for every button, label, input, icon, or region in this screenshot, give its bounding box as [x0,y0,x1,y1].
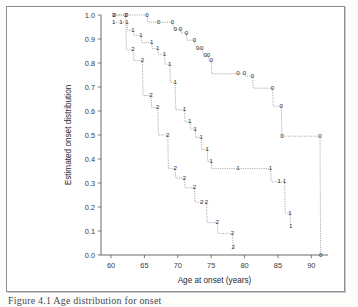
data-point-marker-0: 0 [251,72,255,79]
data-point-marker-1: 1 [193,125,197,132]
data-point-marker-2: 2 [124,11,128,18]
data-point-marker-0: 0 [173,25,177,32]
y-axis-ticks: 0.00.10.20.30.40.50.60.70.80.91.0 [85,11,101,260]
data-point-marker-0: 0 [318,132,322,139]
y-axis-tick-label: 0.0 [85,251,95,260]
data-point-marker-0: 0 [171,18,175,25]
y-axis-tick-label: 0.6 [85,107,95,116]
data-point-marker-2: 2 [156,103,160,110]
data-point-marker-0: 0 [145,11,149,18]
data-point-marker-1: 1 [209,157,213,164]
x-axis-tick-label: 65 [140,261,148,270]
figure-caption: Figure 4.1 Age distribution for onset [8,295,348,307]
y-axis-tick-label: 0.1 [85,227,95,236]
y-axis-tick-label: 1.0 [85,11,95,20]
chart-series-group: 0000000000000000000000111111111111111111… [112,11,323,258]
data-point-marker-2: 2 [113,11,117,18]
data-point-marker-0: 0 [185,29,189,36]
data-point-marker-0: 0 [236,69,240,76]
data-point-marker-1: 1 [156,44,160,51]
x-axis-tick-label: 75 [207,261,215,270]
figure-root: 0.00.10.20.30.40.50.60.70.80.91.0 606570… [0,0,358,307]
data-point-marker-1: 1 [188,117,192,124]
data-point-marker-0: 0 [179,25,183,32]
data-point-marker-0: 0 [280,132,284,139]
chart-plot: 0.00.10.20.30.40.50.60.70.80.91.0 606570… [6,6,345,292]
data-point-marker-1: 1 [278,177,282,184]
data-point-marker-1: 1 [119,18,123,25]
data-point-marker-2: 2 [200,198,204,205]
x-axis-tick-label: 80 [240,261,248,270]
data-point-marker-1: 1 [139,31,143,38]
data-point-marker-1: 1 [289,222,293,229]
data-point-marker-2: 2 [205,198,209,205]
data-point-marker-1: 1 [168,60,172,67]
data-point-marker-2: 2 [231,243,235,250]
data-point-marker-1: 1 [288,209,292,216]
data-point-marker-2: 2 [173,164,177,171]
data-point-marker-1: 1 [199,133,203,140]
x-axis-tick-label: 85 [274,261,282,270]
y-axis-tick-label: 0.4 [85,155,95,164]
y-axis-tick-label: 0.7 [85,83,95,92]
data-point-marker-0: 0 [271,84,275,91]
data-point-marker-1: 1 [131,26,135,33]
y-axis-tick-label: 0.2 [85,203,95,212]
data-point-marker-1: 1 [163,50,167,57]
data-point-marker-0: 0 [193,36,197,43]
data-point-marker-1: 1 [173,78,177,85]
x-axis-tick-label: 90 [307,261,315,270]
data-point-marker-1: 1 [236,164,240,171]
data-point-marker-2: 2 [183,174,187,181]
data-point-marker-2: 2 [166,131,170,138]
data-point-marker-0: 0 [319,251,323,258]
data-point-marker-0: 0 [209,56,213,63]
data-point-marker-2: 2 [231,229,235,236]
data-point-marker-1: 1 [125,18,129,25]
data-point-marker-0: 0 [200,44,204,51]
data-point-marker-1: 1 [183,105,187,112]
data-point-marker-1: 1 [150,38,154,45]
data-point-marker-2: 2 [131,45,135,52]
data-point-marker-1: 1 [205,145,209,152]
data-point-marker-2: 2 [149,91,153,98]
y-axis-tick-label: 0.5 [85,131,95,140]
x-axis-ticks: 60657075808590 [107,255,316,270]
data-point-marker-2: 2 [215,218,219,225]
y-axis-tick-label: 0.3 [85,179,95,188]
data-point-marker-2: 2 [141,56,145,63]
data-point-marker-1: 1 [112,18,116,25]
data-point-marker-2: 2 [193,183,197,190]
data-point-marker-1: 1 [269,164,273,171]
x-axis-tick-label: 70 [174,261,182,270]
data-point-marker-0: 0 [157,18,161,25]
series-step-line-1 [114,22,291,226]
y-axis-tick-label: 0.9 [85,35,95,44]
y-axis-title: Estimated onset distribution [64,84,73,185]
x-axis-title: Age at onset (years) [178,276,252,285]
y-axis-tick-label: 0.8 [85,59,95,68]
data-point-marker-0: 0 [243,69,247,76]
data-point-marker-0: 0 [280,102,284,109]
data-point-marker-1: 1 [283,177,287,184]
x-axis-tick-label: 60 [107,261,115,270]
